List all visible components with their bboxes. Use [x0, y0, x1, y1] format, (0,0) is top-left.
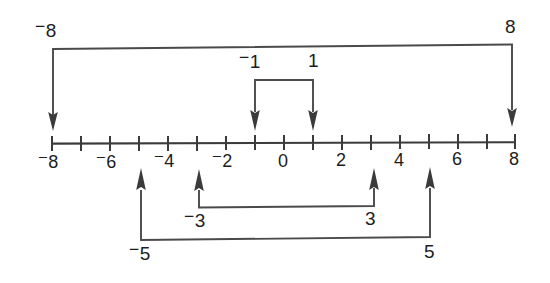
axis-line-group [52, 134, 516, 151]
arrowhead-five [425, 167, 435, 189]
minus-sign: − [154, 147, 164, 166]
number-line-graphic [0, 0, 550, 283]
bracket-inner-top [250, 80, 318, 131]
minus-sign: − [38, 148, 48, 167]
bracket-outer-top [48, 45, 517, 132]
tick-label-value: 8 [509, 149, 519, 169]
tick-label-value: 2 [222, 151, 232, 171]
tick-label-value: 6 [106, 152, 116, 172]
arrowhead-three [369, 168, 379, 190]
annotation-label-1: 1 [308, 51, 319, 70]
tick-label-6: 6 [452, 150, 462, 168]
minus-sign: − [239, 47, 250, 67]
tick-label-minus-2: −2 [212, 152, 232, 171]
annotation-label-minus-5: −5 [129, 244, 150, 263]
tick-label-4: 4 [394, 151, 404, 169]
annotation-label-minus-1: −1 [239, 52, 260, 71]
annotation-value: 5 [424, 241, 435, 262]
minus-sign: − [212, 147, 222, 166]
tick-label-value: 8 [48, 152, 58, 172]
arrowhead-minus-one [250, 110, 260, 131]
number-line-figure: −8 −6 −4 −2 0 2 4 6 8 −8 8 −1 1 −3 3 −5 … [0, 0, 550, 283]
tick-label-2: 2 [336, 151, 346, 169]
arrowhead-minus-three [194, 169, 204, 191]
annotation-value: 1 [250, 51, 261, 72]
tick-label-value: 4 [394, 150, 404, 170]
annotation-label-8: 8 [505, 17, 516, 36]
annotation-value: 1 [308, 50, 319, 71]
minus-sign: − [35, 16, 46, 36]
annotation-value: 8 [505, 16, 516, 37]
annotation-value: 5 [140, 243, 151, 264]
bracket-inner-top-path [255, 80, 313, 112]
arrowhead-one [308, 110, 318, 131]
tick-label-minus-4: −4 [154, 152, 174, 171]
minus-sign: − [184, 206, 195, 226]
tick-label-value: 0 [278, 151, 288, 171]
annotation-label-minus-8: −8 [35, 21, 56, 40]
bracket-outer-bottom [136, 167, 435, 240]
tick-label-value: 6 [452, 149, 462, 169]
minus-sign: − [129, 239, 140, 259]
tick-label-value: 2 [336, 150, 346, 170]
minus-sign: − [96, 148, 106, 167]
tick-label-8: 8 [509, 150, 519, 168]
arrowhead-minus-five [136, 168, 146, 190]
annotation-label-5: 5 [424, 242, 435, 261]
bracket-inner-bottom [194, 168, 379, 208]
annotation-label-3: 3 [365, 209, 376, 228]
annotation-value: 3 [195, 210, 206, 231]
annotation-value: 3 [365, 208, 376, 229]
arrowhead-eight [507, 108, 517, 127]
tick-label-0: 0 [278, 152, 288, 170]
tick-label-minus-8: −8 [38, 153, 58, 172]
annotation-value: 8 [46, 20, 57, 41]
bracket-inner-bottom-path [199, 188, 374, 208]
annotation-label-minus-3: −3 [184, 211, 205, 230]
tick-label-minus-6: −6 [96, 153, 116, 172]
tick-label-value: 4 [164, 151, 174, 171]
